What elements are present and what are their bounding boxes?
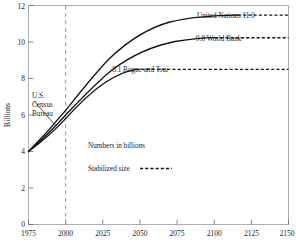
numbers-in-billions-note: Numbers in billions <box>88 142 145 150</box>
x-tick-1975: 1975 <box>21 229 36 238</box>
census-bureau-annotation: U.S. Census Bureau <box>32 92 56 126</box>
x-tick-2075: 2075 <box>170 229 185 238</box>
y-axis-title: Billions <box>3 103 12 127</box>
y-tick-2: 2 <box>21 184 25 193</box>
y-tick-0: 0 <box>21 220 25 229</box>
x-axis-ticks <box>29 220 289 225</box>
y-tick-8: 8 <box>21 74 25 83</box>
y-tick-4: 4 <box>21 147 25 156</box>
x-tick-2000: 2000 <box>58 229 73 238</box>
label-united-nations: United Nations 11.0 <box>197 12 255 20</box>
stabilized-size-label: Stabilized size <box>88 165 130 173</box>
series-world-bank-solid <box>29 38 216 152</box>
x-tick-2125: 2125 <box>244 229 259 238</box>
x-tick-2100: 2100 <box>207 229 222 238</box>
chart-canvas: 0 2 4 6 8 10 12 1975 2000 2025 2050 2075… <box>0 0 296 245</box>
series-bogue-and-tsui <box>29 69 289 151</box>
census-line-1: U.S. <box>32 92 45 100</box>
x-tick-2050: 2050 <box>132 229 147 238</box>
series-world-bank <box>29 38 289 152</box>
y-tick-12: 12 <box>18 2 26 11</box>
x-tick-2150: 2150 <box>280 229 295 238</box>
plot-frame <box>29 6 289 225</box>
x-tick-2025: 2025 <box>95 229 110 238</box>
label-bogue-and-tsui: 8.1 Bogue and Tsui <box>112 66 168 74</box>
series-united-nations <box>29 15 289 151</box>
x-axis-tick-labels: 1975 2000 2025 2050 2075 2100 2125 2150 <box>21 229 295 238</box>
stabilized-size-legend: Stabilized size <box>88 165 172 173</box>
y-tick-10: 10 <box>18 38 26 47</box>
y-tick-6: 6 <box>21 111 25 120</box>
y-axis-tick-labels: 0 2 4 6 8 10 12 <box>18 2 26 230</box>
population-projection-chart: 0 2 4 6 8 10 12 1975 2000 2025 2050 2075… <box>0 0 296 245</box>
label-world-bank: 9.8 World Bank <box>196 35 242 43</box>
